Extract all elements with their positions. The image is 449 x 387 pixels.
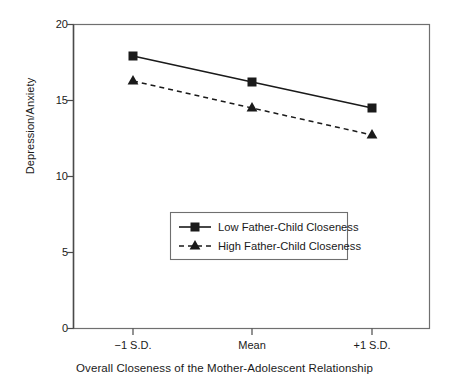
plot-canvas: Low Father-Child Closeness High Father-C… <box>0 0 449 387</box>
legend: Low Father-Child Closeness High Father-C… <box>171 213 362 260</box>
legend-marker-square-icon <box>191 223 200 232</box>
legend-box <box>171 213 348 260</box>
series-2-point-0 <box>128 75 139 85</box>
chart-figure: Depression/Anxiety 20 15 10 5 0 −1 S.D. … <box>0 0 449 387</box>
plot-frame <box>74 25 430 329</box>
y-tick-marks <box>67 25 74 329</box>
series-1-point-0 <box>129 52 138 61</box>
series-1-point-1 <box>248 78 257 87</box>
series-1-point-2 <box>368 104 377 113</box>
legend-label-1: Low Father-Child Closeness <box>218 221 359 233</box>
series-2-point-2 <box>367 129 378 139</box>
x-tick-marks <box>133 329 372 336</box>
legend-label-2: High Father-Child Closeness <box>218 240 361 252</box>
